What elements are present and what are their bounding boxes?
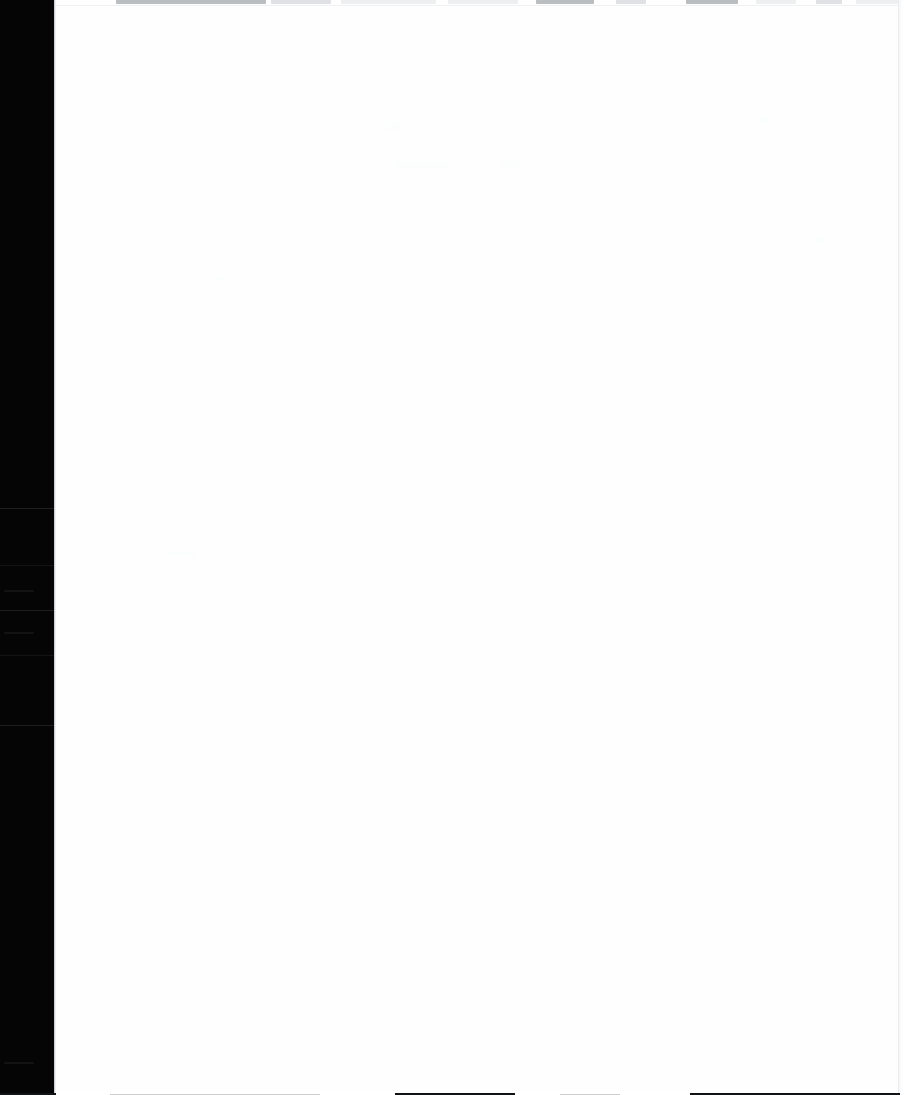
rail-mark	[4, 590, 34, 592]
toolbar-chunk[interactable]	[536, 0, 594, 4]
rail-separator	[0, 610, 54, 611]
canvas-ghost-mark	[166, 552, 196, 557]
toolbar-chunk[interactable]	[856, 0, 900, 4]
window-right-edge[interactable]	[898, 0, 904, 1095]
toolbar-chunk[interactable]	[116, 0, 266, 4]
rail-separator	[0, 725, 54, 726]
canvas-ghost-mark	[501, 159, 519, 167]
toolbar-chunk[interactable]	[616, 0, 646, 4]
canvas-ghost-mark	[816, 237, 828, 243]
toolbar-chunk[interactable]	[271, 0, 331, 4]
toolbar-baseline	[56, 5, 904, 6]
toolbar-chunk[interactable]	[816, 0, 842, 4]
canvas-ghost-mark	[396, 162, 448, 169]
document-canvas[interactable]	[56, 7, 898, 1091]
left-activity-rail[interactable]	[0, 0, 54, 1095]
clipped-toolbar-strip[interactable]	[56, 0, 904, 7]
canvas-ghost-mark	[386, 122, 400, 130]
toolbar-chunk[interactable]	[686, 0, 738, 4]
rail-separator	[0, 565, 54, 566]
bottom-window-rule	[0, 1091, 904, 1095]
toolbar-chunk[interactable]	[448, 0, 518, 4]
rail-separator	[0, 508, 54, 509]
canvas-ghost-mark	[216, 275, 226, 281]
right-edge-line	[898, 0, 899, 1095]
toolbar-chunk[interactable]	[756, 0, 796, 4]
rail-mark	[4, 1062, 34, 1064]
app-window	[0, 0, 904, 1095]
rail-separator	[0, 655, 54, 656]
toolbar-chunk[interactable]	[341, 0, 436, 4]
canvas-ghost-mark	[756, 117, 772, 123]
rail-mark	[4, 632, 34, 634]
